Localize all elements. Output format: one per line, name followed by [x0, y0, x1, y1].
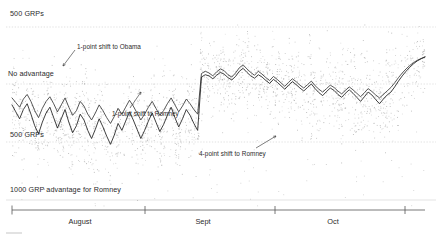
chart-container: 500 GRPs No advantage 500 GRPs 1000 GRP … [0, 0, 436, 239]
annotation-romney-4pt: 4-point shift to Romney [199, 150, 266, 157]
footer-artifact [6, 232, 22, 234]
gridlines [6, 27, 436, 200]
gridline-label-500-top: 500 GRPs [10, 10, 44, 18]
plot-area [0, 0, 436, 239]
annotation-obama-1pt: 1-point shift to Obama [77, 43, 141, 50]
gridline-label-500-bottom: 500 GRPs [10, 131, 44, 139]
gridline-label-no-advantage: No advantage [8, 70, 54, 78]
chart-svg [0, 0, 436, 239]
axis-label-oct: Oct [318, 217, 348, 226]
axis-label-sept: Sept [183, 217, 223, 226]
x-axis [12, 206, 425, 215]
annotation-romney-1pt: 1-point shift to Romney [112, 110, 179, 117]
gridline-label-1000-romney: 1000 GRP advantage for Romney [10, 186, 121, 194]
axis-label-august: August [60, 217, 100, 226]
